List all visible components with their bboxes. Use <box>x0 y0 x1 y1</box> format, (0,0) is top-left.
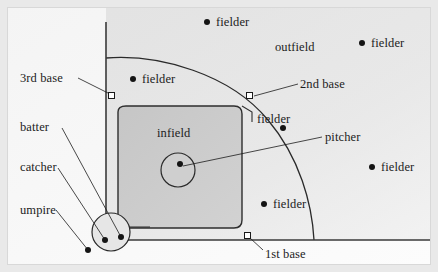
fielder-dot <box>130 76 136 82</box>
base-marker-first <box>244 232 251 239</box>
label-infield: infield <box>157 126 190 141</box>
fielder-dot <box>204 19 210 25</box>
label-fielder: fielder <box>381 160 414 175</box>
pitchers-mound <box>161 153 195 187</box>
fielder-dot <box>369 164 375 170</box>
base-marker-third <box>108 92 115 99</box>
label-pitcher: pitcher <box>325 130 360 145</box>
baseball-field-diagram: outfield infield 3rd base 2nd base 1st b… <box>0 0 438 272</box>
label-second-base: 2nd base <box>300 77 345 92</box>
player-dot-umpire <box>85 247 91 253</box>
label-fielder: fielder <box>257 112 290 127</box>
label-fielder: fielder <box>216 15 249 30</box>
fielder-dot <box>261 201 267 207</box>
player-dot-batter <box>118 234 124 240</box>
player-dot-catcher <box>102 237 108 243</box>
label-fielder: fielder <box>371 36 404 51</box>
label-catcher: catcher <box>20 160 57 175</box>
player-dot-pitcher <box>177 161 183 167</box>
label-umpire: umpire <box>20 203 56 218</box>
label-fielder: fielder <box>273 197 306 212</box>
label-outfield: outfield <box>275 40 315 55</box>
label-first-base: 1st base <box>265 247 306 262</box>
base-marker-second <box>246 92 253 99</box>
label-fielder: fielder <box>142 72 175 87</box>
label-third-base: 3rd base <box>20 71 63 86</box>
fielder-dot <box>359 40 365 46</box>
label-batter: batter <box>20 120 49 135</box>
